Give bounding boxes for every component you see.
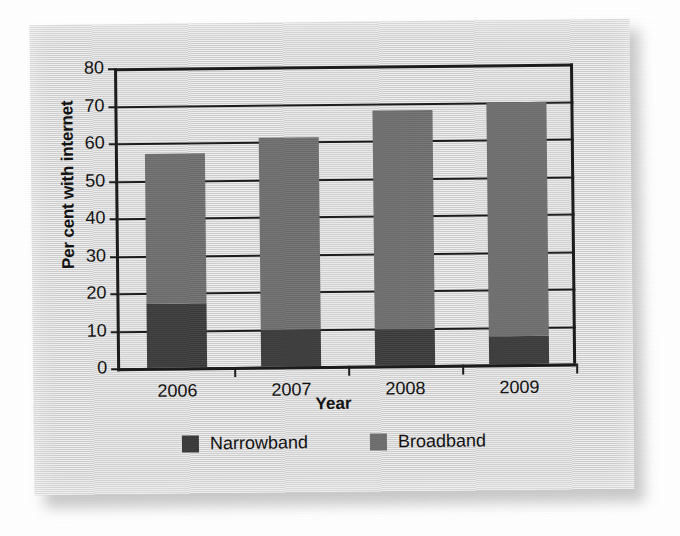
y-tick-mark bbox=[110, 293, 119, 295]
y-tick-label: 40 bbox=[85, 207, 105, 228]
y-axis-title: Per cent with internet bbox=[57, 70, 79, 300]
bar-group[interactable] bbox=[144, 67, 206, 368]
y-tick-label: 10 bbox=[87, 320, 107, 341]
y-tick-mark bbox=[109, 143, 118, 145]
bar-segment-broadband[interactable] bbox=[145, 154, 206, 305]
bar-group[interactable] bbox=[258, 66, 320, 367]
y-tick-label: 20 bbox=[86, 282, 106, 303]
x-axis-title: Year bbox=[33, 391, 633, 417]
chart-figure: Per cent with internet 80706050403020100… bbox=[30, 19, 635, 495]
plot-area: 80706050403020100 2006200720082009 bbox=[114, 63, 576, 371]
x-tick-mark bbox=[234, 367, 236, 377]
y-tick-mark bbox=[110, 256, 119, 258]
bar-segment-narrowband[interactable] bbox=[375, 329, 435, 365]
bar-group[interactable] bbox=[372, 65, 434, 366]
bar-segment-narrowband[interactable] bbox=[489, 336, 549, 365]
bar-segment-narrowband[interactable] bbox=[147, 304, 207, 368]
screenshot-root: Per cent with internet 80706050403020100… bbox=[0, 0, 680, 536]
y-tick-mark bbox=[111, 331, 120, 333]
legend-label: Narrowband bbox=[210, 432, 308, 454]
bar-group[interactable] bbox=[486, 64, 548, 365]
y-tick-label: 50 bbox=[85, 170, 105, 191]
legend-item[interactable]: Narrowband bbox=[182, 432, 308, 454]
y-tick-label: 0 bbox=[97, 357, 107, 378]
legend-label: Broadband bbox=[398, 430, 486, 452]
bar-segment-narrowband[interactable] bbox=[261, 329, 321, 367]
chart-legend: NarrowbandBroadband bbox=[34, 429, 634, 456]
bar-segment-broadband[interactable] bbox=[487, 101, 549, 336]
x-tick-mark bbox=[462, 365, 464, 375]
legend-item[interactable]: Broadband bbox=[370, 430, 486, 452]
y-tick-label: 30 bbox=[86, 245, 106, 266]
y-tick-mark bbox=[108, 68, 117, 70]
x-tick-mark bbox=[576, 363, 578, 373]
y-tick-mark bbox=[110, 218, 119, 220]
y-tick-label: 80 bbox=[84, 57, 104, 78]
y-tick-mark bbox=[111, 368, 120, 370]
y-tick-label: 60 bbox=[85, 132, 105, 153]
y-tick-label: 70 bbox=[84, 95, 104, 116]
bar-segment-broadband[interactable] bbox=[373, 110, 435, 330]
y-tick-mark bbox=[109, 181, 118, 183]
broadband-swatch bbox=[370, 433, 387, 450]
narrowband-swatch bbox=[182, 435, 199, 452]
chart-card: Per cent with internet 80706050403020100… bbox=[30, 19, 635, 495]
x-tick-mark bbox=[348, 366, 350, 376]
bar-segment-broadband[interactable] bbox=[259, 137, 320, 329]
y-tick-mark bbox=[108, 106, 117, 108]
